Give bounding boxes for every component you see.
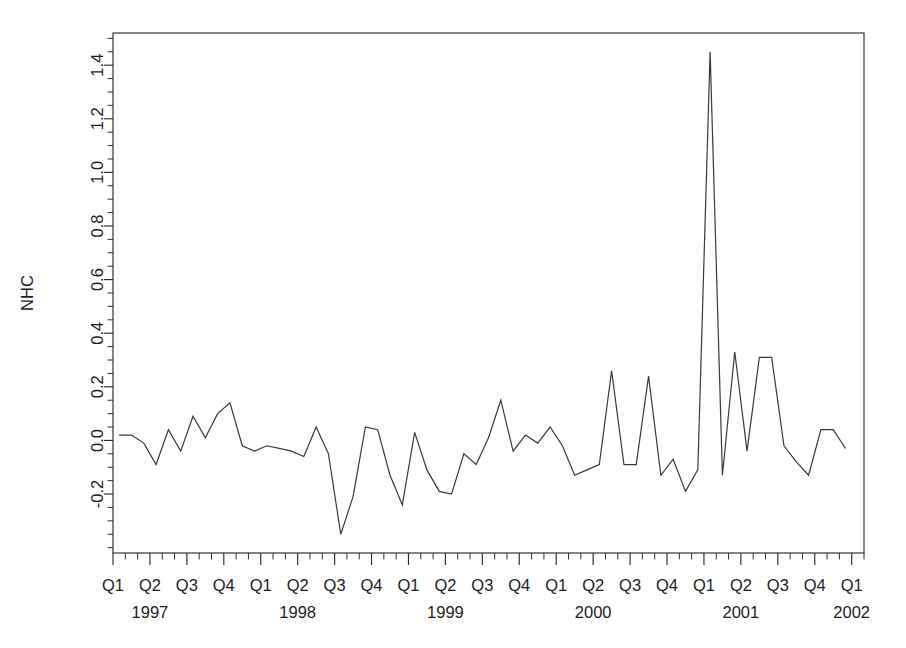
x-tick-label-quarter: Q3 (619, 576, 641, 594)
x-tick-label-quarter: Q4 (361, 576, 383, 594)
plot-background (0, 0, 906, 648)
y-tick-label: -0.2 (88, 480, 106, 508)
y-tick-label: 1.0 (88, 161, 106, 184)
chart-figure: -0.20.00.20.40.60.81.01.21.4 NHC Q1Q2Q3Q… (0, 0, 906, 648)
y-axis-title: NHC (18, 275, 36, 311)
x-tick-label-year: 2002 (833, 603, 870, 621)
x-tick-label-quarter: Q2 (582, 576, 604, 594)
x-tick-label-quarter: Q4 (804, 576, 826, 594)
y-tick-label: 1.2 (88, 107, 106, 130)
x-tick-label-quarter: Q3 (324, 576, 346, 594)
x-tick-label-year: 1999 (427, 603, 464, 621)
x-tick-label-quarter: Q1 (841, 576, 863, 594)
x-tick-label-quarter: Q2 (434, 576, 456, 594)
x-tick-label-quarter: Q1 (397, 576, 419, 594)
x-axis-quarter-labels: Q1Q2Q3Q4Q1Q2Q3Q4Q1Q2Q3Q4Q1Q2Q3Q4Q1Q2Q3Q4… (102, 576, 863, 594)
x-tick-label-quarter: Q1 (250, 576, 272, 594)
x-tick-label-quarter: Q3 (176, 576, 198, 594)
x-tick-label-quarter: Q1 (545, 576, 567, 594)
x-tick-label-quarter: Q3 (767, 576, 789, 594)
x-tick-label-quarter: Q2 (287, 576, 309, 594)
x-tick-label-quarter: Q2 (730, 576, 752, 594)
y-tick-label: 1.4 (88, 54, 106, 77)
x-tick-label-quarter: Q4 (656, 576, 678, 594)
x-tick-label-quarter: Q4 (213, 576, 235, 594)
x-tick-label-quarter: Q3 (471, 576, 493, 594)
x-tick-label-quarter: Q1 (102, 576, 124, 594)
y-tick-label: 0.4 (88, 322, 106, 345)
x-tick-label-quarter: Q1 (693, 576, 715, 594)
x-tick-label-year: 1997 (132, 603, 169, 621)
x-tick-label-year: 2001 (723, 603, 760, 621)
y-axis-tick-labels: -0.20.00.20.40.60.81.01.21.4 (88, 54, 106, 509)
y-tick-label: 0.6 (88, 268, 106, 291)
x-tick-label-year: 1998 (279, 603, 316, 621)
y-tick-label: 0.2 (88, 375, 106, 398)
x-tick-label-quarter: Q4 (508, 576, 530, 594)
nhc-timeseries-plot: -0.20.00.20.40.60.81.01.21.4 NHC Q1Q2Q3Q… (0, 0, 906, 648)
x-tick-label-quarter: Q2 (139, 576, 161, 594)
x-tick-label-year: 2000 (575, 603, 612, 621)
y-tick-label: 0.0 (88, 429, 106, 452)
y-tick-label: 0.8 (88, 215, 106, 238)
